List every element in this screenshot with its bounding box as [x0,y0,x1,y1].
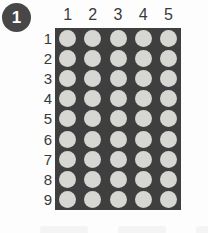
led-cell-r8-c5[interactable] [156,171,181,188]
led-cell-r9-c3[interactable] [105,191,130,208]
led-cell-r4-c2[interactable] [80,90,105,107]
led-cell-r5-c3[interactable] [105,110,130,127]
led-dot [84,191,101,208]
led-dot [135,191,152,208]
led-cell-r2-c3[interactable] [105,50,130,67]
led-dot [160,171,177,188]
led-dot [160,70,177,87]
step-number-label: 1 [12,9,21,26]
led-dot [135,131,152,148]
led-dot [59,191,76,208]
led-dot [135,151,152,168]
led-cell-r2-c4[interactable] [131,50,156,67]
led-dot [135,90,152,107]
step-number-badge: 1 [2,3,31,32]
led-dot [110,171,127,188]
led-row [55,28,181,48]
column-header-3: 3 [105,4,130,26]
led-dot [110,30,127,47]
led-cell-r8-c4[interactable] [131,171,156,188]
led-cell-r9-c1[interactable] [55,191,80,208]
led-dot [59,90,76,107]
led-cell-r5-c5[interactable] [156,110,181,127]
led-cell-r5-c4[interactable] [131,110,156,127]
led-cell-r5-c1[interactable] [55,110,80,127]
led-cell-r2-c1[interactable] [55,50,80,67]
row-label-2: 2 [33,48,52,68]
led-cell-r6-c5[interactable] [156,131,181,148]
led-dot-matrix-panel [55,28,181,210]
led-dot [84,151,101,168]
led-dot [110,70,127,87]
row-label-7: 7 [33,149,52,169]
column-header-1: 1 [55,4,80,26]
led-cell-r4-c4[interactable] [131,90,156,107]
led-cell-r4-c1[interactable] [55,90,80,107]
led-row [55,89,181,109]
led-row [55,149,181,169]
led-row [55,190,181,210]
led-cell-r8-c1[interactable] [55,171,80,188]
led-dot [84,70,101,87]
led-dot [59,171,76,188]
led-cell-r7-c3[interactable] [105,151,130,168]
led-dot [84,30,101,47]
bottom-edge-bleed [0,224,208,233]
led-dot [135,30,152,47]
led-dot [160,191,177,208]
led-cell-r6-c1[interactable] [55,131,80,148]
led-dot [59,110,76,127]
led-cell-r3-c4[interactable] [131,70,156,87]
led-cell-r9-c4[interactable] [131,191,156,208]
led-cell-r1-c4[interactable] [131,30,156,47]
row-label-9: 9 [33,190,52,210]
led-cell-r3-c1[interactable] [55,70,80,87]
led-cell-r7-c2[interactable] [80,151,105,168]
led-cell-r1-c5[interactable] [156,30,181,47]
row-label-column: 1 2 3 4 5 6 7 8 9 [33,28,52,210]
led-cell-r6-c2[interactable] [80,131,105,148]
led-cell-r1-c2[interactable] [80,30,105,47]
led-dot [84,131,101,148]
bleed-shape-middle [118,226,166,233]
led-cell-r2-c5[interactable] [156,50,181,67]
led-cell-r5-c2[interactable] [80,110,105,127]
led-cell-r7-c5[interactable] [156,151,181,168]
led-cell-r6-c3[interactable] [105,131,130,148]
led-dot [160,151,177,168]
led-cell-r1-c3[interactable] [105,30,130,47]
led-dot [135,50,152,67]
led-cell-r4-c5[interactable] [156,90,181,107]
row-label-4: 4 [33,89,52,109]
led-dot [84,50,101,67]
row-label-8: 8 [33,170,52,190]
led-cell-r8-c3[interactable] [105,171,130,188]
led-cell-r1-c1[interactable] [55,30,80,47]
led-row [55,170,181,190]
row-label-3: 3 [33,68,52,88]
led-dot [59,50,76,67]
led-cell-r6-c4[interactable] [131,131,156,148]
led-dot [135,70,152,87]
led-dot [135,171,152,188]
dot-matrix-figure: 1 1 2 3 4 5 1 2 3 4 5 6 7 8 9 [0,0,208,233]
led-cell-r4-c3[interactable] [105,90,130,107]
column-header-5: 5 [156,4,181,26]
led-dot [135,110,152,127]
led-dot [160,131,177,148]
led-dot [110,131,127,148]
led-cell-r9-c2[interactable] [80,191,105,208]
led-cell-r7-c4[interactable] [131,151,156,168]
bleed-shape-left [40,226,88,233]
led-dot [110,110,127,127]
led-cell-r2-c2[interactable] [80,50,105,67]
led-dot [84,171,101,188]
row-label-6: 6 [33,129,52,149]
led-cell-r7-c1[interactable] [55,151,80,168]
led-cell-r9-c5[interactable] [156,191,181,208]
led-cell-r8-c2[interactable] [80,171,105,188]
led-cell-r3-c2[interactable] [80,70,105,87]
led-cell-r3-c3[interactable] [105,70,130,87]
led-cell-r3-c5[interactable] [156,70,181,87]
led-row [55,48,181,68]
